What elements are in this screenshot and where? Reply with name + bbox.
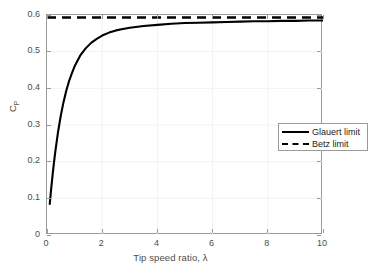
x-tick-label: 2 — [89, 239, 113, 248]
y-tick-label: 0.3 — [14, 120, 40, 129]
x-tick-mark — [323, 15, 324, 19]
x-tick-mark — [157, 229, 158, 233]
x-tick-label: 0 — [34, 239, 58, 248]
y-axis-title: CP — [7, 100, 20, 112]
y-tick-mark — [47, 88, 51, 89]
x-tick-mark — [102, 229, 103, 233]
legend-line-sample-solid — [282, 131, 309, 133]
y-tick-mark — [317, 51, 321, 52]
y-tick-mark — [317, 161, 321, 162]
x-tick-mark — [267, 15, 268, 19]
y-tick-label: 0.1 — [14, 193, 40, 202]
x-tick-mark — [47, 229, 48, 233]
y-tick-mark — [47, 125, 51, 126]
y-tick-mark — [317, 15, 321, 16]
x-tick-mark — [212, 229, 213, 233]
legend-entry-glauert: Glauert limit — [281, 126, 367, 138]
x-tick-mark — [267, 229, 268, 233]
x-tick-mark — [47, 15, 48, 19]
y-tick-label: 0.2 — [14, 156, 40, 165]
x-axis-title-text: Tip speed ratio, λ — [133, 252, 207, 263]
legend-line-sample-dashed — [282, 143, 309, 145]
y-tick-mark — [47, 51, 51, 52]
x-tick-label: 8 — [255, 239, 279, 248]
legend-entry-betz: Betz limit — [281, 138, 367, 150]
series-line-glauert — [50, 21, 323, 204]
legend-box: Glauert limit Betz limit — [278, 123, 368, 151]
y-tick-mark — [317, 235, 321, 236]
y-tick-label: 0.6 — [14, 10, 40, 19]
y-tick-label: 0.4 — [14, 83, 40, 92]
x-tick-label: 6 — [200, 239, 224, 248]
y-tick-label: 0.5 — [14, 46, 40, 55]
plot-axes: Glauert limit Betz limit — [46, 14, 322, 234]
legend-label-betz: Betz limit — [312, 139, 349, 149]
y-tick-mark — [47, 15, 51, 16]
x-tick-label: 10 — [310, 239, 334, 248]
x-tick-mark — [323, 229, 324, 233]
y-tick-mark — [47, 235, 51, 236]
y-axis-title-subscript: P — [13, 100, 20, 105]
x-tick-label: 4 — [144, 239, 168, 248]
x-tick-mark — [102, 15, 103, 19]
legend-label-glauert: Glauert limit — [312, 127, 360, 137]
y-tick-mark — [47, 198, 51, 199]
y-tick-mark — [317, 88, 321, 89]
x-axis-title: Tip speed ratio, λ — [0, 252, 341, 263]
y-tick-mark — [317, 198, 321, 199]
x-tick-mark — [212, 15, 213, 19]
y-tick-mark — [47, 161, 51, 162]
x-tick-mark — [157, 15, 158, 19]
y-axis-title-text: C — [7, 105, 18, 112]
y-tick-label: 0 — [14, 230, 40, 239]
